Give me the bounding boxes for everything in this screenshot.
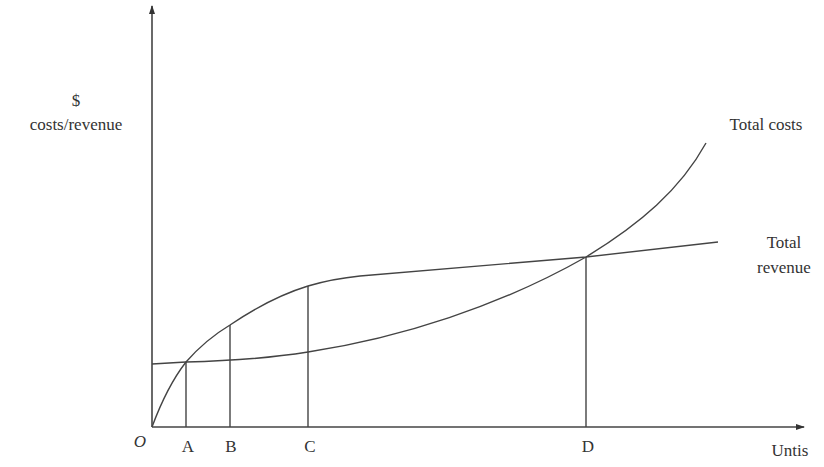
y-axis-label-dollar: $: [72, 91, 81, 110]
total-revenue-label-line2: revenue: [757, 258, 811, 277]
total-costs-label: Total costs: [730, 115, 803, 134]
y-axis-label: costs/revenue: [30, 115, 123, 134]
total-revenue-label-line1: Total: [767, 233, 802, 252]
x-axis-label: Untis: [772, 441, 809, 460]
x-tick-b: B: [225, 437, 236, 456]
x-tick-c: C: [304, 437, 315, 456]
break-even-chart: $ costs/revenue O A B C D Untis Total co…: [0, 0, 824, 467]
origin-label: O: [134, 432, 146, 451]
total-revenue-curve: [152, 242, 718, 427]
x-tick-d: D: [582, 437, 594, 456]
x-tick-a: A: [182, 437, 195, 456]
